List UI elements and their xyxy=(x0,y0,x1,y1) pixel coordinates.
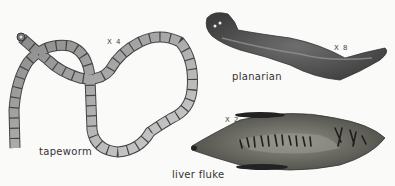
liver-fluke-label: liver fluke xyxy=(172,169,224,180)
tapeworm-label: tapeworm xyxy=(39,146,92,157)
planarian-drawing xyxy=(206,13,386,80)
tapeworm-magnification: X 4 xyxy=(107,38,121,46)
planarian-label: planarian xyxy=(232,71,282,82)
tapeworm-drawing xyxy=(14,33,193,152)
liver-fluke-drawing xyxy=(191,112,385,170)
liver-fluke-magnification: X 2 xyxy=(225,116,239,124)
flatworm-illustration: X 4 tapeworm X 8 planarian X 2 liver flu… xyxy=(0,0,395,186)
planarian-magnification: X 8 xyxy=(334,44,348,52)
illustration-art xyxy=(0,0,395,186)
